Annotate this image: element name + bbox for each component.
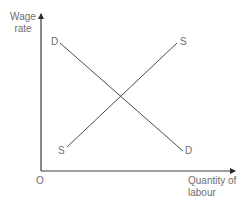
demand-label-end: D [185, 145, 192, 157]
origin-label: O [36, 175, 44, 187]
x-axis-label-line1: Quantity of [188, 175, 236, 187]
x-axis-label: Quantity of labour [188, 175, 236, 199]
labour-market-diagram: Wage rate D S S D O Quantity of labour [0, 0, 248, 210]
y-axis-label-line2: rate [8, 23, 38, 35]
supply-label-end: S [180, 36, 187, 48]
supply-label-start: S [58, 145, 65, 157]
y-axis-label: Wage rate [8, 11, 38, 35]
demand-label-start: D [51, 36, 58, 48]
demand-curve [60, 43, 183, 151]
x-axis-label-line2: labour [188, 187, 236, 199]
y-axis-label-line1: Wage [8, 11, 38, 23]
